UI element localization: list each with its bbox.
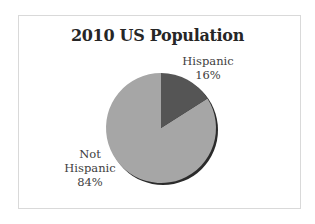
slice-label-not-hispanic: Not Hispanic 84%: [62, 147, 118, 189]
slice-label-not-hispanic-value: 84%: [62, 175, 118, 189]
pie-chart: [0, 0, 315, 224]
slice-label-hispanic: Hispanic 16%: [180, 54, 236, 82]
slice-label-not-hispanic-line1: Not: [62, 147, 118, 161]
slice-label-hispanic-name: Hispanic: [180, 54, 236, 68]
slice-label-not-hispanic-line2: Hispanic: [62, 161, 118, 175]
slice-label-hispanic-value: 16%: [180, 68, 236, 82]
